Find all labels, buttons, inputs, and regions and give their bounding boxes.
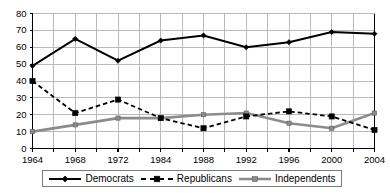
data-point-marker (30, 130, 34, 134)
y-axis-tick-label: 10 (0, 127, 27, 137)
data-point-marker (372, 31, 377, 36)
y-axis-tick-label: 20 (0, 110, 27, 120)
data-point-marker (372, 127, 377, 132)
x-axis-tick-label: 1964 (16, 155, 50, 165)
data-point-marker (158, 116, 163, 121)
legend-item-democrats[interactable]: Democrats (45, 173, 136, 185)
data-point-marker (252, 176, 257, 181)
x-axis-tick-label: 1972 (101, 155, 135, 165)
x-axis-tick-label: 1984 (144, 155, 178, 165)
x-axis-tick-label: 1992 (229, 155, 263, 165)
data-point-marker (73, 123, 77, 127)
data-point-marker (73, 110, 78, 115)
legend-item-independents[interactable]: Independents (235, 173, 339, 185)
legend-label-democrats: Democrats (85, 174, 133, 184)
legend-swatch-democrats-icon (48, 173, 82, 185)
data-point-marker (287, 121, 291, 125)
chart-legend: DemocratsRepublicansIndependents (42, 170, 342, 187)
data-point-marker (329, 114, 334, 119)
legend-swatch-republicans-icon (140, 173, 174, 185)
data-point-marker (286, 109, 291, 114)
data-point-marker (330, 126, 334, 130)
legend-item-republicans[interactable]: Republicans (137, 173, 235, 185)
x-axis-tick-label: 1996 (272, 155, 306, 165)
x-axis-tick-label: 2000 (315, 155, 349, 165)
y-axis-tick-label: 40 (0, 76, 27, 86)
y-axis-tick-label: 70 (0, 25, 27, 35)
data-point-marker (201, 33, 206, 38)
data-point-marker (286, 40, 291, 45)
y-axis-tick-label: 0 (0, 144, 27, 154)
x-axis-tick-label: 1968 (58, 155, 92, 165)
data-point-marker (116, 116, 120, 120)
data-point-marker (201, 126, 206, 131)
y-axis-tick-label: 60 (0, 42, 27, 52)
data-point-marker (30, 78, 35, 83)
legend-label-independents: Independents (275, 174, 336, 184)
data-point-marker (201, 113, 205, 117)
data-point-marker (244, 114, 249, 119)
y-axis-tick-label: 30 (0, 93, 27, 103)
x-axis-tick-label: 2004 (358, 155, 390, 165)
data-point-marker (115, 97, 120, 102)
y-axis-tick-label: 80 (0, 9, 27, 19)
y-axis-tick-label: 50 (0, 59, 27, 69)
legend-swatch-independents-icon (238, 173, 272, 185)
data-point-marker (154, 176, 160, 182)
data-point-marker (372, 111, 376, 115)
x-axis-tick-label: 1988 (187, 155, 221, 165)
data-point-marker (62, 176, 68, 182)
legend-label-republicans: Republicans (177, 174, 232, 184)
data-point-marker (244, 45, 249, 50)
